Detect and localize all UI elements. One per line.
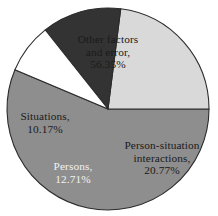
pie-chart: Other factors and error, 56.35% Situatio… — [0, 0, 218, 216]
pie-slice-group — [7, 8, 209, 210]
pie-slice — [108, 9, 209, 109]
pie-chart-graphic — [0, 0, 218, 216]
